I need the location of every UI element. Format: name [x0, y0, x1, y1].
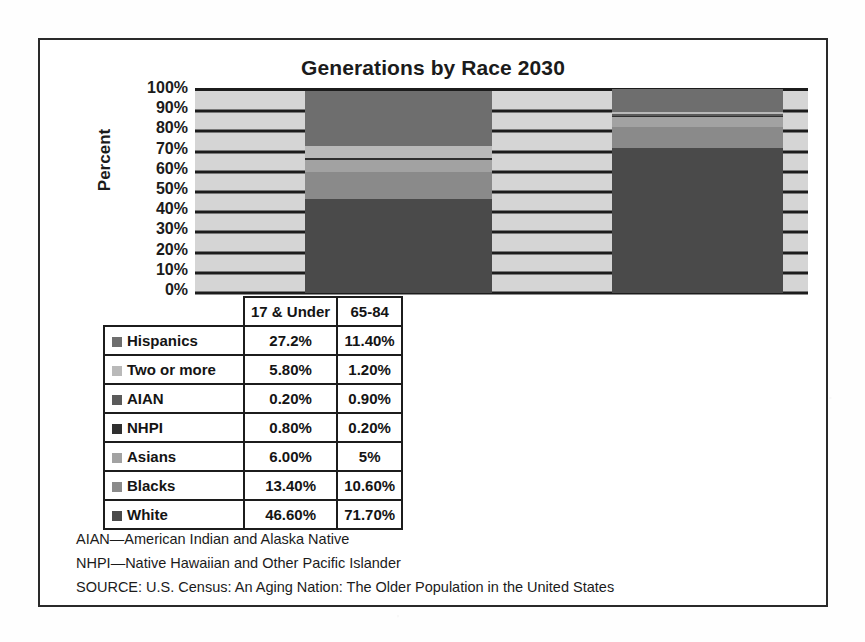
table-header-row: 17 & Under 65-84 [104, 297, 402, 326]
y-tick-label: 40% [156, 201, 188, 217]
table-row: Blacks13.40%10.60% [104, 471, 402, 500]
table-cell-value-1: 0.90% [337, 384, 402, 413]
legend-label: Two or more [127, 361, 216, 378]
y-axis-tick-labels: 100%90%80%70%60%50%40%30%20%10%0% [108, 88, 188, 292]
table-row: Hispanics27.2%11.40% [104, 326, 402, 355]
legend-swatch-icon [112, 511, 122, 521]
legend-label: Hispanics [127, 332, 198, 349]
table-cell-value-0: 27.2% [244, 326, 337, 355]
table-row: Two or more5.80%1.20% [104, 355, 402, 384]
legend-entry: Blacks [104, 471, 244, 500]
table-cell-value-1: 10.60% [337, 471, 402, 500]
bar-segment [305, 91, 492, 146]
bar-segment [305, 146, 492, 158]
table-cell-value-1: 0.20% [337, 413, 402, 442]
y-tick-label: 100% [147, 80, 188, 96]
stacked-bar [305, 91, 492, 293]
bar-segment [612, 112, 784, 114]
legend-entry: Asians [104, 442, 244, 471]
legend-label: Blacks [127, 477, 175, 494]
bar-segment [612, 114, 784, 116]
legend-entry: NHPI [104, 413, 244, 442]
table-cell-value-1: 71.70% [337, 500, 402, 529]
data-table: 17 & Under 65-84 Hispanics27.2%11.40%Two… [103, 296, 403, 530]
legend-entry: Two or more [104, 355, 244, 384]
table-cell-value-1: 1.20% [337, 355, 402, 384]
legend-label: AIAN [127, 390, 164, 407]
bar-segment [612, 148, 784, 293]
table-corner-cell [104, 297, 244, 326]
table-cell-value-0: 46.60% [244, 500, 337, 529]
table-row: AIAN0.20%0.90% [104, 384, 402, 413]
legend-entry: AIAN [104, 384, 244, 413]
legend-entry: Hispanics [104, 326, 244, 355]
y-tick-label: 80% [156, 120, 188, 136]
table-cell-value-0: 0.20% [244, 384, 337, 413]
bar-segment [612, 127, 784, 148]
table-column-header-0: 17 & Under [244, 297, 337, 326]
legend-label: Asians [127, 448, 176, 465]
footnote-line: SOURCE: U.S. Census: An Aging Nation: Th… [76, 575, 806, 599]
stacked-bar [612, 91, 784, 293]
chart-title: Generations by Race 2030 [40, 54, 826, 82]
y-tick-label: 60% [156, 161, 188, 177]
table-row: White46.60%71.70% [104, 500, 402, 529]
bar-segment [305, 160, 492, 172]
legend-entry: White [104, 500, 244, 529]
legend-swatch-icon [112, 453, 122, 463]
figure-frame: Generations by Race 2030 Percent 100%90%… [38, 38, 828, 607]
y-tick-label: 70% [156, 141, 188, 157]
footnote-line: AIAN—American Indian and Alaska Native [76, 527, 806, 551]
legend-swatch-icon [112, 482, 122, 492]
table-cell-value-0: 5.80% [244, 355, 337, 384]
table-cell-value-0: 13.40% [244, 471, 337, 500]
y-tick-label: 30% [156, 221, 188, 237]
footnote-line: NHPI—Native Hawaiian and Other Pacific I… [76, 551, 806, 575]
table-row: NHPI0.80%0.20% [104, 413, 402, 442]
plot-area [195, 88, 808, 293]
table-cell-value-1: 5% [337, 442, 402, 471]
table-cell-value-0: 0.80% [244, 413, 337, 442]
legend-swatch-icon [112, 337, 122, 347]
table-column-header-1: 65-84 [337, 297, 402, 326]
y-tick-label: 10% [156, 262, 188, 278]
plot-region: Percent 100%90%80%70%60%50%40%30%20%10%0… [40, 88, 826, 296]
legend-swatch-icon [112, 395, 122, 405]
bar-segment [612, 89, 784, 112]
legend-label: NHPI [127, 419, 163, 436]
bar-segment [612, 117, 784, 127]
legend-swatch-icon [112, 366, 122, 376]
footnotes: AIAN—American Indian and Alaska NativeNH… [76, 527, 806, 599]
bar-segment [305, 199, 492, 293]
legend-label: White [127, 506, 168, 523]
table-cell-value-1: 11.40% [337, 326, 402, 355]
legend-swatch-icon [112, 424, 122, 434]
table-cell-value-0: 6.00% [244, 442, 337, 471]
bar-segment [305, 158, 492, 160]
bar-segment [305, 172, 492, 199]
table-row: Asians6.00%5% [104, 442, 402, 471]
y-tick-label: 20% [156, 242, 188, 258]
y-tick-label: 50% [156, 181, 188, 197]
y-tick-label: 90% [156, 100, 188, 116]
